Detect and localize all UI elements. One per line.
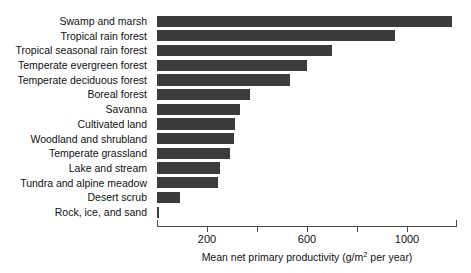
bar-row [157, 29, 457, 44]
category-label: Swamp and marsh [0, 14, 152, 29]
x-axis-tick-label: 600 [298, 233, 316, 245]
category-axis-labels: Swamp and marshTropical rain forestTropi… [0, 14, 152, 220]
bar-row [157, 132, 457, 147]
category-label: Temperate deciduous forest [0, 73, 152, 88]
bar-row [157, 161, 457, 176]
x-axis-right-cap [456, 220, 457, 227]
x-axis-tick [257, 227, 258, 232]
bar [157, 177, 218, 188]
x-axis-title: Mean net primary productivity (g/m2 per … [157, 251, 457, 263]
bar-row [157, 190, 457, 205]
bar-row [157, 102, 457, 117]
bar-row [157, 43, 457, 58]
category-label: Desert scrub [0, 190, 152, 205]
bar [157, 133, 234, 144]
x-axis-left-cap [157, 220, 158, 227]
x-axis-title-suffix: per year) [367, 251, 412, 263]
bar-row [157, 14, 457, 29]
bar-row [157, 58, 457, 73]
x-axis-title-prefix: Mean net primary productivity (g/m [202, 251, 364, 263]
category-label: Tundra and alpine meadow [0, 176, 152, 191]
bar-row [157, 205, 457, 220]
bar [157, 45, 332, 56]
bar [157, 148, 230, 159]
bar [157, 104, 240, 115]
bar [157, 162, 220, 173]
bar [157, 89, 250, 100]
x-axis-tick [407, 227, 408, 232]
x-axis-tick [307, 227, 308, 232]
x-axis-tick-label: 200 [198, 233, 216, 245]
x-axis-tick-label: 1000 [395, 233, 419, 245]
category-label: Woodland and shrubland [0, 132, 152, 147]
bar [157, 192, 180, 203]
category-label: Tropical seasonal rain forest [0, 43, 152, 58]
bar [157, 60, 307, 71]
category-label: Tropical rain forest [0, 29, 152, 44]
bar-row [157, 117, 457, 132]
category-label: Rock, ice, and sand [0, 205, 152, 220]
bar-row [157, 87, 457, 102]
bar-chart: Swamp and marshTropical rain forestTropi… [0, 0, 471, 273]
x-axis-tick [207, 227, 208, 232]
bar-row [157, 73, 457, 88]
plot-area [157, 14, 457, 220]
category-label: Lake and stream [0, 161, 152, 176]
bar [157, 16, 452, 27]
bar [157, 118, 235, 129]
category-label: Cultivated land [0, 117, 152, 132]
category-label: Boreal forest [0, 87, 152, 102]
bar-row [157, 146, 457, 161]
bar-row [157, 176, 457, 191]
category-label: Temperate evergreen forest [0, 58, 152, 73]
bar [157, 74, 290, 85]
bar [157, 207, 159, 218]
bar [157, 30, 395, 41]
category-label: Savanna [0, 102, 152, 117]
x-axis-tick [357, 227, 358, 232]
category-label: Temperate grassland [0, 146, 152, 161]
